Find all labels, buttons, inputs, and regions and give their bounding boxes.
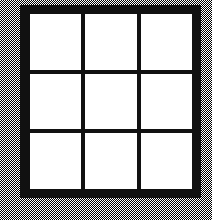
grid-pane-r2c2[interactable] [85,74,136,130]
grid-pane-r1c3[interactable] [141,14,192,70]
grid-pane-r2c3[interactable] [141,74,192,130]
grid-pane-r1c1[interactable] [30,14,81,70]
grid-pane-r3c3[interactable] [141,133,192,189]
grid-pane-r3c1[interactable] [30,133,81,189]
pane-grid [30,14,192,189]
grid-pane-r2c1[interactable] [30,74,81,130]
window-frame [20,5,201,198]
grid-pane-r3c2[interactable] [85,133,136,189]
grid-pane-r1c2[interactable] [85,14,136,70]
image-canvas [0,0,212,220]
